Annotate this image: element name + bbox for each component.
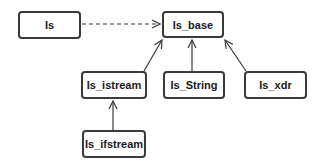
node-is-base: Is_base — [162, 11, 224, 38]
node-is-base-label: Is_base — [173, 19, 213, 31]
node-is-string: Is_String — [163, 71, 225, 99]
node-is-ifstream-label: Is_ifstream — [85, 138, 143, 150]
node-is-xdr-label: Is_xdr — [259, 79, 291, 91]
node-is-string-label: Is_String — [170, 79, 217, 91]
edge-is-istream-to-is-base — [144, 40, 162, 71]
node-is-label: Is — [45, 19, 54, 31]
node-is-ifstream: Is_ifstream — [82, 130, 146, 158]
edge-is-xdr-to-is-base — [225, 40, 246, 71]
node-is-xdr: Is_xdr — [244, 71, 307, 99]
node-is-istream-label: Is_istream — [87, 79, 141, 91]
node-is-istream: Is_istream — [81, 71, 147, 99]
node-is: Is — [18, 11, 81, 39]
